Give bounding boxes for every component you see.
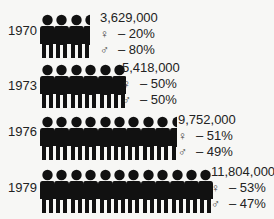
person-icon — [155, 116, 169, 162]
person-icon — [40, 169, 54, 215]
male-percent: – 80% — [118, 42, 155, 58]
female-icon: ♀ — [100, 26, 118, 42]
person-icon — [98, 169, 112, 215]
person-icon — [69, 116, 83, 162]
person-icon — [69, 64, 83, 110]
person-icon — [69, 14, 83, 60]
stats-1973: 5,418,000 ♀– 50% ♂– 50% — [122, 60, 180, 108]
person-icon — [40, 14, 54, 60]
person-icon — [54, 169, 68, 215]
row-1970: 1970 3,629,000 ♀– 20% ♂– 80% — [0, 10, 274, 60]
female-icon: ♀ — [211, 180, 229, 196]
total-value: 5,418,000 — [122, 60, 180, 76]
pictograph-1976 — [40, 116, 177, 162]
pictograph-1979 — [40, 169, 213, 215]
person-icon — [126, 169, 140, 215]
person-icon — [170, 169, 184, 215]
female-percent: – 53% — [229, 180, 266, 196]
male-icon: ♂ — [211, 196, 229, 212]
cropped-header-text — [40, 0, 240, 2]
female-percent: – 50% — [140, 76, 177, 92]
male-icon: ♂ — [100, 42, 118, 58]
person-icon — [83, 64, 97, 110]
person-icon — [112, 116, 126, 162]
pictograph-1973 — [40, 64, 126, 110]
person-icon — [54, 64, 68, 110]
stats-1976: 9,752,000 ♀– 51% ♂– 49% — [178, 112, 236, 160]
total-value: 11,804,000 — [211, 164, 274, 180]
row-1979: 1979 11,804,000 ♀– 53% ♂– 47% — [0, 164, 274, 214]
year-label: 1979 — [8, 180, 37, 195]
stats-1970: 3,629,000 ♀– 20% ♂– 80% — [100, 10, 158, 58]
person-icon — [54, 14, 68, 60]
male-percent: – 47% — [229, 196, 266, 212]
person-icon — [112, 169, 126, 215]
person-icon — [184, 169, 198, 215]
female-icon: ♀ — [178, 128, 196, 144]
person-icon — [40, 116, 54, 162]
male-percent: – 50% — [140, 92, 177, 108]
partial-person-icon — [170, 116, 177, 162]
person-icon — [83, 169, 97, 215]
person-icon — [141, 169, 155, 215]
male-icon: ♂ — [122, 92, 140, 108]
female-percent: – 51% — [196, 128, 233, 144]
person-icon — [141, 116, 155, 162]
year-label: 1970 — [8, 23, 37, 38]
total-value: 3,629,000 — [100, 10, 158, 26]
person-icon — [126, 116, 140, 162]
person-icon — [69, 169, 83, 215]
partial-person-icon — [83, 14, 90, 60]
person-icon — [40, 64, 54, 110]
female-percent: – 20% — [118, 26, 155, 42]
person-icon — [98, 64, 112, 110]
person-icon — [83, 116, 97, 162]
person-icon — [155, 169, 169, 215]
row-1973: 1973 5,418,000 ♀– 50% ♂– 50% — [0, 60, 274, 110]
male-icon: ♂ — [178, 144, 196, 160]
year-label: 1973 — [8, 78, 37, 93]
person-icon — [98, 116, 112, 162]
female-icon: ♀ — [122, 76, 140, 92]
year-label: 1976 — [8, 124, 37, 139]
male-percent: – 49% — [196, 144, 233, 160]
pictograph-1970 — [40, 14, 90, 60]
stats-1979: 11,804,000 ♀– 53% ♂– 47% — [211, 164, 274, 212]
person-icon — [54, 116, 68, 162]
total-value: 9,752,000 — [178, 112, 236, 128]
row-1976: 1976 9,752,000 ♀– 51% ♂– 49% — [0, 112, 274, 162]
